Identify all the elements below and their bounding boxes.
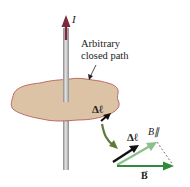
b-parallel-label: B∥	[148, 127, 159, 137]
closed-path-label: Arbitrary closed path	[81, 38, 129, 62]
transition-arrow-icon	[102, 124, 118, 149]
dl-on-path-label: Δℓ	[92, 104, 103, 115]
closed-path-label-line2: closed path	[81, 50, 129, 62]
path-label-pointer-icon	[88, 65, 96, 80]
wire-lower	[63, 118, 69, 170]
projection-dashed-line	[157, 142, 173, 165]
b-vector-arrow-mark-icon: →	[141, 167, 149, 175]
ampere-law-diagram	[0, 0, 190, 187]
current-arrow-icon	[62, 15, 71, 40]
dl-vector-label: Δℓ	[127, 132, 138, 143]
current-label: I	[72, 14, 76, 25]
closed-path-label-line1: Arbitrary	[81, 38, 129, 50]
